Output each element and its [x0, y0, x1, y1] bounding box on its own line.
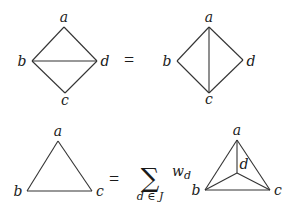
vertex-label-a: a [60, 9, 68, 25]
edge-a-b [177, 27, 209, 61]
edge-a-c [58, 141, 92, 191]
vertex-label-b: b [18, 53, 27, 69]
weight-symbol: w [172, 163, 184, 179]
vertex-label-c: c [61, 92, 69, 108]
edge-a-b [32, 27, 64, 61]
equals-sign: = [109, 169, 119, 189]
vertex-label-a: a [54, 123, 62, 139]
vertex-label-b: b [14, 183, 23, 199]
edge-c-d [237, 173, 270, 190]
sigma-symbol: ∑ [141, 163, 160, 193]
vertex-label-d: d [101, 53, 110, 69]
vertex-label-b: b [163, 53, 172, 69]
edge-a-d [209, 27, 243, 60]
star-triangle-identity-diagram: a b d c = a b d c a b c = ∑ d ∈ J wd [0, 0, 292, 205]
edge-b-c [177, 61, 209, 93]
edge-b-c [32, 61, 65, 93]
vertex-label-b: b [192, 182, 201, 198]
summation: ∑ d ∈ J wd [137, 163, 191, 203]
summation-index: d ∈ J [137, 190, 164, 203]
eq1-lhs-graph: a b d c [18, 9, 110, 108]
vertex-label-a: a [233, 122, 241, 138]
vertex-label-a: a [205, 9, 213, 25]
weight-term: wd [172, 163, 191, 182]
eq2-rhs-graph: a b c d [192, 122, 283, 198]
vertex-label-d: d [240, 156, 249, 172]
vertex-label-c: c [205, 91, 213, 107]
vertex-label-c: c [274, 182, 282, 198]
eq2-lhs-graph: a b c [14, 123, 105, 199]
eq1-rhs-graph: a b d c [163, 9, 256, 107]
edge-c-d [65, 61, 97, 93]
edge-a-b [205, 140, 237, 190]
weight-subscript: d [184, 169, 191, 182]
edge-a-b [27, 141, 58, 191]
vertex-label-d: d [247, 53, 256, 69]
equals-sign: = [124, 50, 134, 70]
edge-c-d [209, 60, 243, 93]
edge-a-d [64, 27, 97, 61]
vertex-label-c: c [96, 183, 104, 199]
